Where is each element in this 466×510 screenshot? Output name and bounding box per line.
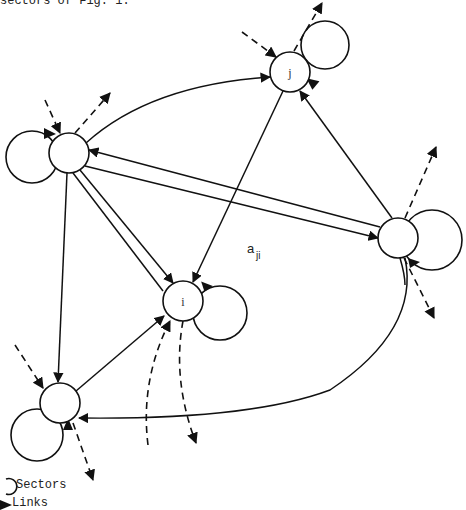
external-output-right-up	[405, 147, 436, 218]
link-left-to-j	[86, 77, 270, 143]
node-label-j: j	[287, 66, 291, 80]
link-right-to-left	[89, 150, 380, 227]
sector-network-diagram: j i a ji	[0, 0, 466, 510]
link-right-to-j	[300, 91, 392, 218]
edge-label-base: a	[247, 241, 255, 256]
external-output-j	[294, 3, 322, 51]
sector-node-j: j	[270, 52, 310, 92]
edge-label-subscript: ji	[255, 250, 260, 261]
external-input-left	[45, 100, 60, 133]
external-input-j	[242, 32, 276, 57]
external-output-i	[180, 321, 196, 443]
link-right-to-bottom-left	[79, 258, 407, 418]
external-input-i	[146, 321, 170, 445]
sector-node-bottom-left	[40, 383, 80, 423]
external-input-bottom-left	[15, 345, 43, 388]
sector-node-i: i	[163, 281, 203, 321]
external-output-left	[75, 93, 110, 133]
sector-node-right	[378, 218, 418, 258]
legend-sectors-label: Sectors	[16, 478, 66, 492]
link-legend-icon	[0, 500, 12, 510]
link-i-to-left	[73, 173, 163, 291]
link-left-to-i	[80, 170, 173, 283]
legend-links-label: Links	[12, 496, 48, 510]
external-output-bottom-left	[73, 423, 93, 480]
link-left-to-bottom-left	[58, 173, 67, 382]
link-j-to-i	[193, 91, 283, 282]
link-bottom-left-to-i	[76, 316, 164, 391]
sector-node-left	[49, 133, 89, 173]
link-right-to-bottom-left-b	[400, 258, 405, 285]
